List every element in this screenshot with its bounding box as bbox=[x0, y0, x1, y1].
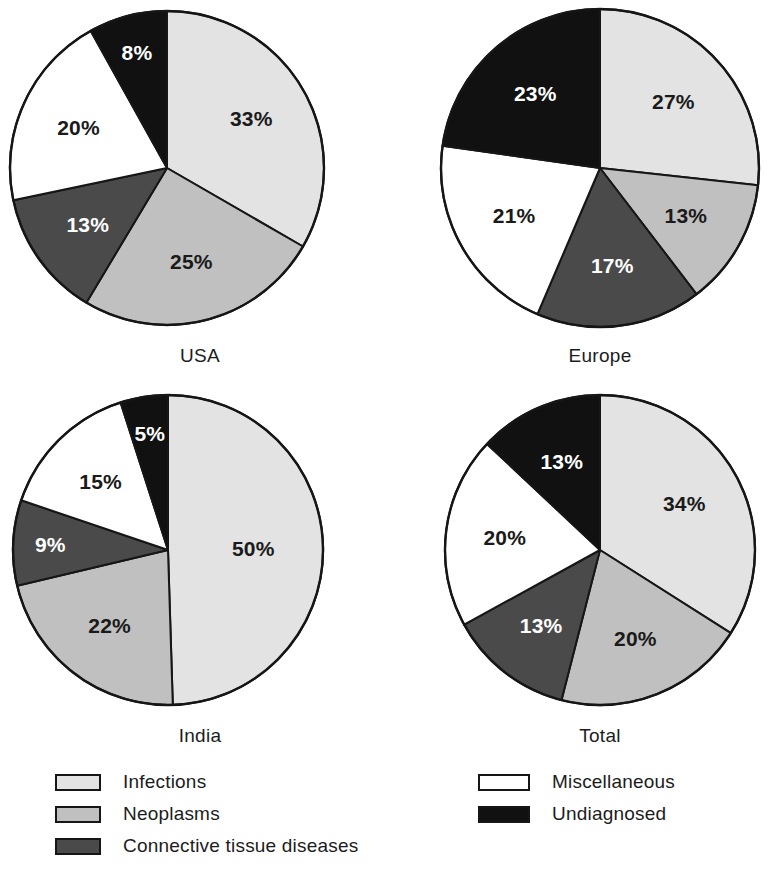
legend-item-neoplasms[interactable]: Neoplasms bbox=[55, 798, 358, 830]
legend-item-label: Connective tissue diseases bbox=[123, 835, 358, 857]
slice-value-label: 17% bbox=[591, 254, 634, 277]
slice-value-label: 8% bbox=[122, 41, 153, 64]
pie-chart-usa: 33%25%13%20%8% bbox=[4, 5, 330, 331]
black-swatch bbox=[478, 806, 530, 823]
slice-value-label: 25% bbox=[170, 250, 213, 273]
legend-item-miscellaneous[interactable]: Miscellaneous bbox=[478, 766, 675, 798]
legend: InfectionsNeoplasmsConnective tissue dis… bbox=[0, 766, 769, 872]
slice-value-label: 15% bbox=[79, 470, 122, 493]
slice-value-label: 13% bbox=[665, 204, 708, 227]
legend-item-label: Miscellaneous bbox=[552, 771, 675, 793]
pie-chart-europe: 27%13%17%21%23% bbox=[435, 3, 765, 333]
pie-chart-figure: 33%25%13%20%8%USA27%13%17%21%23%Europe50… bbox=[0, 0, 769, 872]
slice-value-label: 20% bbox=[483, 526, 526, 549]
pie-title-europe: Europe bbox=[0, 345, 769, 367]
slice-value-label: 33% bbox=[230, 107, 273, 130]
slice-value-label: 20% bbox=[57, 116, 100, 139]
legend-item-connective-tissue-diseases[interactable]: Connective tissue diseases bbox=[55, 830, 358, 862]
slice-value-label: 13% bbox=[520, 614, 563, 637]
slice-value-label: 13% bbox=[540, 450, 583, 473]
slice-value-label: 13% bbox=[66, 213, 109, 236]
white-swatch bbox=[478, 774, 530, 791]
slice-value-label: 21% bbox=[493, 204, 536, 227]
legend-item-undiagnosed[interactable]: Undiagnosed bbox=[478, 798, 675, 830]
slice-value-label: 50% bbox=[232, 537, 275, 560]
light-gray-swatch bbox=[55, 774, 101, 791]
dark-gray-swatch bbox=[55, 838, 101, 855]
pie-title-label: Total bbox=[400, 725, 769, 747]
pie-chart-india: 50%22%9%15%5% bbox=[7, 389, 329, 711]
slice-value-label: 22% bbox=[88, 614, 131, 637]
legend-item-label: Undiagnosed bbox=[552, 803, 666, 825]
pie-svg: 50%22%9%15%5% bbox=[7, 389, 329, 711]
pie-title-total: Total bbox=[0, 725, 769, 747]
slice-value-label: 23% bbox=[514, 82, 557, 105]
medium-gray-swatch bbox=[55, 806, 101, 823]
legend-item-label: Infections bbox=[123, 771, 206, 793]
pie-svg: 27%13%17%21%23% bbox=[435, 3, 765, 333]
legend-item-infections[interactable]: Infections bbox=[55, 766, 358, 798]
slice-value-label: 9% bbox=[35, 533, 66, 556]
slice-value-label: 20% bbox=[614, 627, 657, 650]
slice-value-label: 27% bbox=[652, 90, 695, 113]
pie-title-label: Europe bbox=[400, 345, 769, 367]
pie-svg: 33%25%13%20%8% bbox=[4, 5, 330, 331]
legend-item-label: Neoplasms bbox=[123, 803, 220, 825]
slice-value-label: 34% bbox=[663, 492, 706, 515]
legend-column-left: InfectionsNeoplasmsConnective tissue dis… bbox=[55, 766, 358, 862]
slice-value-label: 5% bbox=[134, 422, 165, 445]
pie-chart-total: 34%20%13%20%13% bbox=[439, 389, 761, 711]
pie-svg: 34%20%13%20%13% bbox=[439, 389, 761, 711]
legend-column-right: MiscellaneousUndiagnosed bbox=[478, 766, 675, 830]
